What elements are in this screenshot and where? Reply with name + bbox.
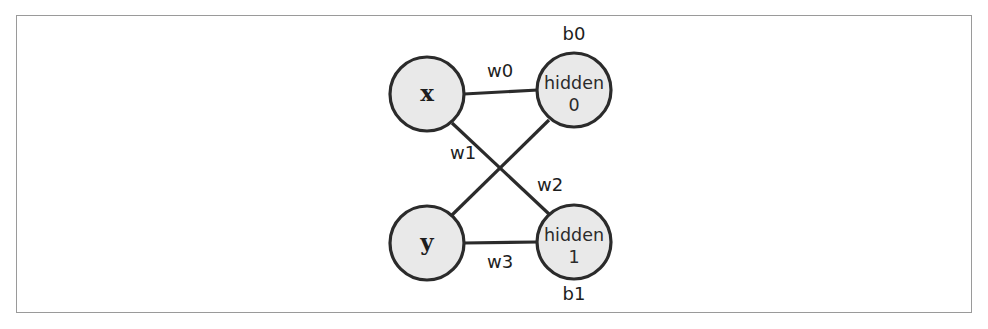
- figure-root: x y hidden 0 hidden 1 b0 b1 w0 w1 w2 w3: [0, 0, 988, 329]
- weight-label-w3: w3: [487, 251, 513, 272]
- neural-network-diagram: x y hidden 0 hidden 1 b0 b1 w0 w1 w2 w3: [0, 0, 988, 329]
- weight-label-w2: w2: [537, 174, 563, 195]
- bias-label-b1: b1: [563, 283, 586, 304]
- node-input-x-label: x: [420, 79, 434, 106]
- weight-label-w0: w0: [487, 60, 513, 81]
- edge-y-hidden1: [464, 242, 538, 243]
- edge-x-hidden0: [464, 90, 538, 94]
- node-hidden-1-label-line2: 1: [568, 247, 579, 267]
- node-hidden-0-label-line2: 0: [568, 95, 579, 115]
- node-hidden-0-label-line1: hidden: [544, 73, 604, 93]
- node-input-y-label: y: [419, 228, 434, 255]
- bias-label-b0: b0: [563, 23, 586, 44]
- node-hidden-1-label-line1: hidden: [544, 225, 604, 245]
- weight-label-w1: w1: [450, 142, 476, 163]
